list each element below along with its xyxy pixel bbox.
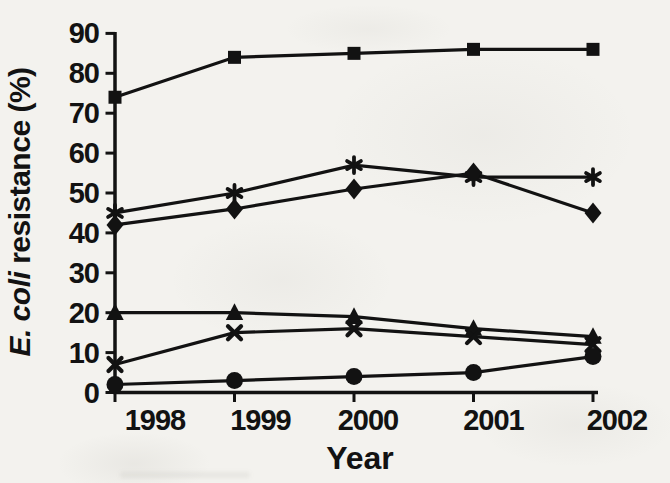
line-chart: 010203040506070809019981999200020012002 … [0, 0, 670, 483]
scan-smudge [120, 472, 250, 478]
x-tick-label: 2001 [463, 404, 524, 436]
x-axis-title: Year [326, 440, 394, 476]
series-line-x [115, 329, 593, 365]
y-tick-label: 60 [69, 137, 99, 169]
marker-diamond [585, 202, 602, 223]
marker-circle [585, 348, 602, 365]
y-tick-label: 50 [69, 177, 99, 209]
y-tick-label: 80 [69, 57, 99, 89]
marker-circle [226, 372, 243, 389]
y-tick-label: 70 [69, 97, 99, 129]
y-tick-label: 40 [69, 217, 99, 249]
marker-circle [465, 364, 482, 381]
y-tick-label: 20 [69, 297, 99, 329]
x-tick-label: 1998 [125, 404, 186, 436]
y-tick-label: 30 [69, 257, 99, 289]
y-axis-title-species: E. coli [3, 271, 36, 357]
axes [115, 32, 598, 393]
x-tick-label: 1999 [230, 404, 291, 436]
y-tick-label: 10 [69, 337, 99, 369]
marker-square [467, 43, 480, 56]
marker-circle [346, 368, 363, 385]
y-axis-title: E. coli resistance (%) [3, 67, 36, 356]
y-tick-label: 90 [69, 17, 99, 49]
marker-square [109, 91, 122, 104]
marker-square [348, 47, 361, 60]
scanned-figure-page: 010203040506070809019981999200020012002 … [0, 0, 670, 483]
axis-line [115, 32, 598, 393]
x-tick-label: 2002 [587, 404, 648, 436]
y-tick-label: 0 [84, 377, 99, 409]
marker-square [587, 43, 600, 56]
marker-circle [107, 376, 124, 393]
x-tick-label: 2000 [338, 404, 399, 436]
marker-diamond [346, 179, 363, 200]
marker-diamond [226, 198, 243, 219]
series-lines [115, 49, 593, 384]
marker-square [228, 51, 241, 64]
y-axis-title-rest: resistance (%) [3, 67, 36, 271]
